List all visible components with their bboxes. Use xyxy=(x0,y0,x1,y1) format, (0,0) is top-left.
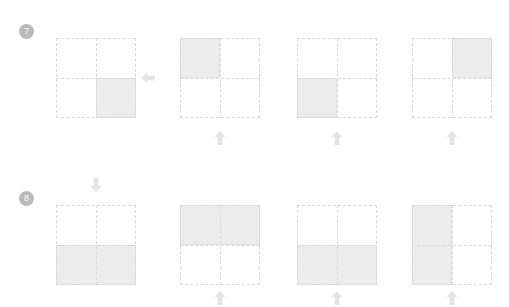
question-7-option-b-arrow-up-icon xyxy=(328,129,346,147)
grid-horizontal-divider xyxy=(180,245,260,246)
question-8-option-b-arrow-up-icon xyxy=(328,289,346,307)
question-8-option-c-arrow-up-icon xyxy=(443,289,461,307)
question-8-option-a-arrow-up-icon xyxy=(211,289,229,307)
grid-horizontal-divider xyxy=(412,78,492,79)
grid-horizontal-divider xyxy=(56,78,136,79)
grid-horizontal-divider xyxy=(56,245,136,246)
question-7-option-c-grid[interactable] xyxy=(412,38,492,118)
question-8-prompt-grid xyxy=(56,205,136,285)
question-7-option-a-grid[interactable] xyxy=(180,38,260,118)
question-8-option-c-grid[interactable] xyxy=(412,205,492,285)
grid-horizontal-divider xyxy=(297,245,377,246)
question-7-option-b-grid[interactable] xyxy=(297,38,377,118)
question-7-option-c-arrow-up-icon xyxy=(443,129,461,147)
question-7-prompt-arrow-left-icon xyxy=(139,69,157,87)
question-number-badge-8: 8 xyxy=(19,191,34,206)
question-8-prompt-arrow-down-icon xyxy=(87,176,105,194)
question-7-option-a-arrow-up-icon xyxy=(211,129,229,147)
worksheet-page: 7 xyxy=(0,0,509,307)
question-7-prompt-grid xyxy=(56,38,136,118)
grid-horizontal-divider xyxy=(180,78,260,79)
grid-horizontal-divider xyxy=(412,245,492,246)
grid-horizontal-divider xyxy=(297,78,377,79)
question-number-badge-7: 7 xyxy=(19,24,34,39)
question-8-option-b-grid[interactable] xyxy=(297,205,377,285)
question-8-option-a-grid[interactable] xyxy=(180,205,260,285)
